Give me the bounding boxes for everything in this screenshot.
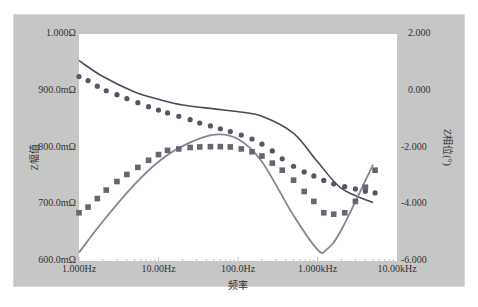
y-left-tick-label: 700.0mΩ bbox=[16, 197, 76, 208]
series-line-0 bbox=[79, 61, 373, 203]
data-point bbox=[331, 211, 337, 217]
data-point bbox=[146, 104, 151, 109]
y-right-tick-label: -4.000 bbox=[401, 197, 427, 208]
data-point bbox=[321, 178, 326, 183]
data-point bbox=[302, 169, 307, 174]
data-point bbox=[342, 210, 348, 216]
series-line-2 bbox=[79, 134, 373, 253]
data-point bbox=[165, 148, 171, 154]
data-point bbox=[279, 167, 285, 173]
data-point bbox=[114, 179, 120, 185]
data-point bbox=[372, 167, 378, 173]
data-point bbox=[331, 181, 336, 186]
data-point bbox=[353, 186, 358, 191]
x-tick-label: 1.000Hz bbox=[44, 263, 114, 274]
data-point bbox=[85, 204, 91, 210]
data-point bbox=[311, 173, 316, 178]
x-tick-label: 10.00Hz bbox=[124, 263, 194, 274]
data-point bbox=[76, 210, 82, 216]
data-point bbox=[269, 160, 275, 166]
data-point bbox=[353, 199, 359, 205]
data-point bbox=[228, 129, 233, 134]
data-point bbox=[249, 136, 254, 141]
data-point bbox=[95, 84, 100, 89]
x-tick-label: 100.0Hz bbox=[203, 263, 273, 274]
data-point bbox=[188, 117, 193, 122]
y-right-tick-label: 0.000 bbox=[408, 84, 431, 95]
y-left-tick-label: 1.000Ω bbox=[16, 27, 76, 38]
data-point bbox=[135, 165, 141, 171]
data-point bbox=[363, 184, 369, 190]
data-point bbox=[114, 92, 119, 97]
series-layer bbox=[76, 61, 393, 261]
x-axis-title: 频率 bbox=[228, 277, 248, 292]
data-point bbox=[176, 114, 181, 119]
data-point bbox=[208, 123, 213, 128]
data-point bbox=[124, 96, 129, 101]
data-point bbox=[291, 164, 296, 169]
data-point bbox=[270, 148, 275, 153]
data-point bbox=[280, 156, 285, 161]
data-point bbox=[301, 189, 307, 195]
data-point bbox=[124, 172, 130, 178]
data-point bbox=[259, 153, 265, 159]
data-point bbox=[165, 110, 170, 115]
data-point bbox=[291, 177, 297, 183]
data-point bbox=[321, 210, 327, 216]
data-point bbox=[95, 196, 101, 202]
data-point bbox=[239, 132, 244, 137]
data-point bbox=[146, 157, 152, 163]
data-point bbox=[249, 149, 255, 155]
data-point bbox=[104, 88, 109, 93]
y-left-axis-title: Z幅值 bbox=[26, 144, 41, 170]
y-right-tick-label: -2.000 bbox=[401, 141, 427, 152]
data-point bbox=[342, 184, 347, 189]
data-point bbox=[197, 144, 203, 150]
data-point bbox=[197, 120, 202, 125]
data-point bbox=[311, 199, 317, 205]
data-point bbox=[227, 144, 233, 150]
y-left-tick-label: 900.0mΩ bbox=[16, 84, 76, 95]
data-point bbox=[259, 141, 264, 146]
data-point bbox=[218, 126, 223, 131]
x-tick-label: 1.000kHz bbox=[283, 263, 353, 274]
data-point bbox=[187, 145, 193, 151]
y-right-tick-label: 2.000 bbox=[408, 27, 431, 38]
data-point bbox=[176, 146, 182, 152]
data-point bbox=[156, 107, 161, 112]
y-right-axis-title: Z相位(°) bbox=[441, 129, 456, 166]
data-point bbox=[76, 74, 81, 79]
data-point bbox=[135, 100, 140, 105]
data-point bbox=[85, 78, 90, 83]
data-point bbox=[238, 146, 244, 152]
data-point bbox=[218, 144, 224, 150]
data-point bbox=[372, 190, 377, 195]
data-point bbox=[103, 187, 109, 193]
x-tick-label: 10.00kHz bbox=[362, 263, 432, 274]
data-point bbox=[156, 152, 162, 158]
data-point bbox=[208, 144, 214, 150]
